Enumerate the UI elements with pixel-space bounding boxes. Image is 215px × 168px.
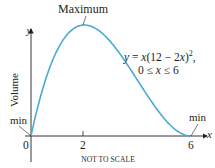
x-tick-label-2: 2 <box>80 140 86 152</box>
x-tick-label-6: 6 <box>188 140 194 152</box>
x-tick-label-0: 0 <box>23 140 29 152</box>
chart-canvas <box>0 0 215 168</box>
maximum-leader <box>83 16 86 25</box>
min-right-label: min <box>189 112 206 123</box>
min-left-leader <box>19 126 31 136</box>
min-left-label: min <box>10 115 27 126</box>
equation-line-1: y = x(12 − 2x)2, <box>124 50 196 64</box>
function-curve <box>31 25 191 136</box>
x-axis-label: x <box>207 129 212 140</box>
equation-line-2: 0 ≤ x ≤ 6 <box>138 65 179 77</box>
min-right-leader <box>191 124 198 136</box>
not-to-scale-note: NOT TO SCALE <box>81 156 135 164</box>
y-axis-label: y <box>27 25 32 36</box>
volume-axis-title: Volume <box>9 73 20 107</box>
maximum-label: Maximum <box>58 3 108 15</box>
